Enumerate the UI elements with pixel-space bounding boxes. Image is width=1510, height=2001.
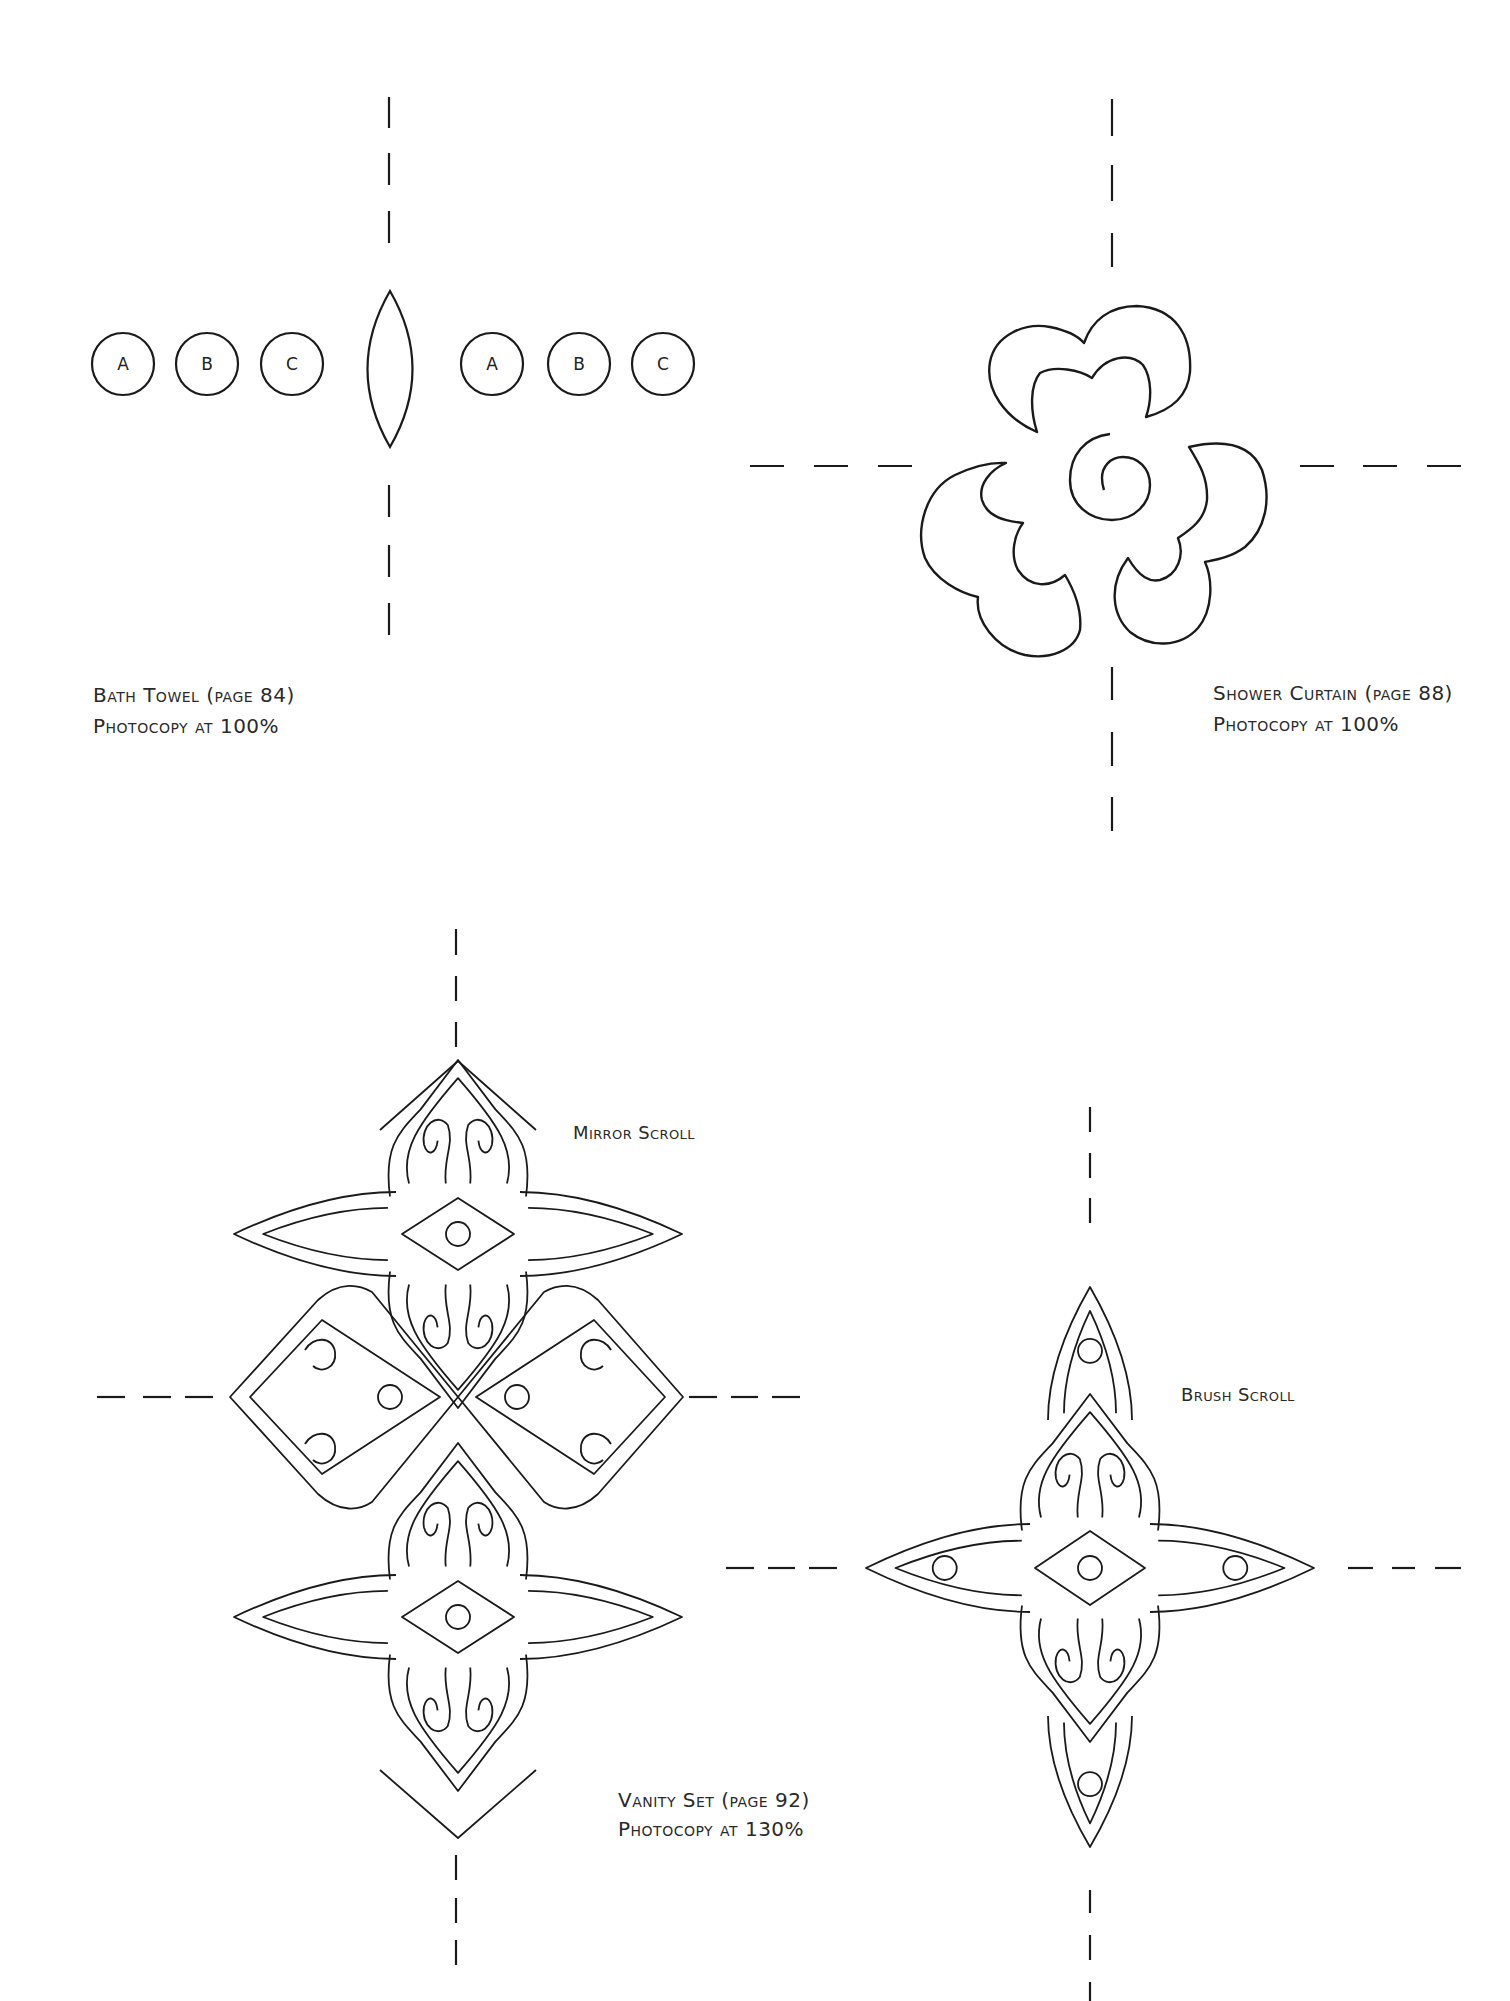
scroll-lobe bbox=[388, 1060, 527, 1197]
scroll-lobe bbox=[1020, 1394, 1159, 1531]
scroll-curl bbox=[305, 1434, 335, 1464]
scroll-leaf bbox=[234, 1575, 396, 1659]
leaf-hole bbox=[1078, 1772, 1102, 1796]
shower-curtain-flower-template bbox=[921, 306, 1266, 656]
template-page-artwork: ABCABC bbox=[0, 0, 1510, 2001]
lens-shape bbox=[368, 291, 413, 447]
leaf-hole bbox=[933, 1556, 957, 1580]
circle-letter-label: B bbox=[573, 354, 585, 374]
scroll-curl bbox=[466, 1503, 492, 1567]
scroll-curl bbox=[424, 1285, 450, 1349]
diamond-hole bbox=[446, 1222, 470, 1246]
scroll-curl bbox=[1056, 1454, 1082, 1518]
mirror-right-panel bbox=[458, 1286, 683, 1509]
fold-guide-lines bbox=[97, 97, 1461, 2001]
scroll-leaf bbox=[520, 1575, 682, 1659]
scroll-leaf bbox=[866, 1524, 1030, 1612]
scroll-curl bbox=[424, 1120, 450, 1184]
circle-letter-label: A bbox=[486, 354, 498, 374]
bath-towel-subtitle: Photocopy at 100% bbox=[93, 711, 295, 742]
vanity-set-subtitle: Photocopy at 130% bbox=[618, 1815, 810, 1844]
circle-letter-label: C bbox=[286, 354, 298, 374]
bath-towel-caption: Bath Towel (page 84) Photocopy at 100% bbox=[93, 680, 295, 742]
scroll-curl bbox=[466, 1668, 492, 1732]
vanity-set-title: Vanity Set (page 92) bbox=[618, 1786, 810, 1815]
circle-letter-label: B bbox=[201, 354, 213, 374]
center-diamond bbox=[402, 1581, 514, 1653]
scroll-lobe bbox=[388, 1272, 527, 1409]
scroll-leaf bbox=[520, 1192, 682, 1276]
shower-curtain-title: Shower Curtain (page 88) bbox=[1213, 678, 1453, 709]
bath-towel-template: ABCABC bbox=[92, 291, 694, 447]
scroll-leaf bbox=[1048, 1287, 1132, 1420]
scroll-curl bbox=[581, 1434, 611, 1464]
diamond-hole bbox=[1078, 1556, 1102, 1580]
flower-top-lobe bbox=[989, 306, 1190, 432]
shower-curtain-caption: Shower Curtain (page 88) Photocopy at 10… bbox=[1213, 678, 1453, 740]
bath-towel-title: Bath Towel (page 84) bbox=[93, 680, 295, 711]
scroll-curl bbox=[466, 1120, 492, 1184]
scroll-curl bbox=[581, 1340, 611, 1370]
scroll-lobe bbox=[388, 1443, 527, 1580]
mirror-left-panel bbox=[230, 1286, 458, 1509]
scroll-leaf bbox=[234, 1192, 396, 1276]
scroll-curl bbox=[1098, 1619, 1124, 1683]
scroll-lobe bbox=[1020, 1606, 1159, 1743]
mirror-right-hole bbox=[505, 1385, 529, 1409]
scroll-leaf bbox=[1048, 1716, 1132, 1847]
brush-scroll-template bbox=[866, 1287, 1314, 1847]
center-diamond bbox=[1035, 1531, 1145, 1605]
center-diamond bbox=[402, 1198, 514, 1270]
flower-left-lobe bbox=[921, 463, 1080, 656]
leaf-hole bbox=[1078, 1339, 1102, 1363]
mirror-bottom-tip bbox=[380, 1770, 536, 1838]
diamond-hole bbox=[446, 1605, 470, 1629]
mirror-scroll-template bbox=[230, 1060, 683, 1838]
scroll-curl bbox=[305, 1340, 335, 1370]
scroll-curl bbox=[1056, 1619, 1082, 1683]
scroll-lobe bbox=[388, 1655, 527, 1792]
circle-letter-label: A bbox=[117, 354, 129, 374]
mirror-scroll-label: Mirror Scroll bbox=[573, 1122, 695, 1143]
mirror-left-hole bbox=[378, 1385, 402, 1409]
scroll-curl bbox=[424, 1668, 450, 1732]
scroll-curl bbox=[424, 1503, 450, 1567]
flower-center-spiral bbox=[1070, 434, 1150, 520]
circle-letter-label: C bbox=[657, 354, 669, 374]
mirror-top-tip bbox=[380, 1061, 536, 1130]
scroll-curl bbox=[466, 1285, 492, 1349]
brush-scroll-label: Brush Scroll bbox=[1181, 1384, 1295, 1405]
scroll-leaf bbox=[1150, 1524, 1314, 1612]
flower-right-lobe bbox=[1115, 444, 1267, 644]
shower-curtain-subtitle: Photocopy at 100% bbox=[1213, 709, 1453, 740]
scroll-curl bbox=[1098, 1454, 1124, 1518]
vanity-set-caption: Vanity Set (page 92) Photocopy at 130% bbox=[618, 1786, 810, 1844]
leaf-hole bbox=[1223, 1556, 1247, 1580]
